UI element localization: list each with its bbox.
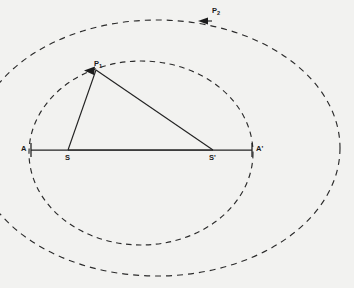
label-point-p2: P2: [212, 7, 220, 15]
orbit-direction-arrow-p2-icon: [198, 18, 208, 25]
triangle-side-p1-s-prime: [96, 70, 213, 150]
orbit-diagram-figure: A S S' A' P1 P2: [0, 0, 354, 288]
triangle-side-s-p1: [68, 70, 96, 150]
label-apoapsis-right: A': [256, 145, 263, 153]
inner-orbit-ellipse: [29, 61, 253, 245]
label-apoapsis-left: A: [21, 145, 27, 153]
label-point-p2-subscript: 2: [217, 10, 220, 16]
label-point-p1-subscript: 1: [99, 63, 102, 69]
diagram-canvas: [0, 0, 354, 288]
outer-orbit-ellipse: [0, 20, 340, 276]
label-point-p1: P1: [94, 60, 102, 68]
label-star-primary: S: [65, 154, 70, 162]
label-star-secondary: S': [209, 154, 216, 162]
